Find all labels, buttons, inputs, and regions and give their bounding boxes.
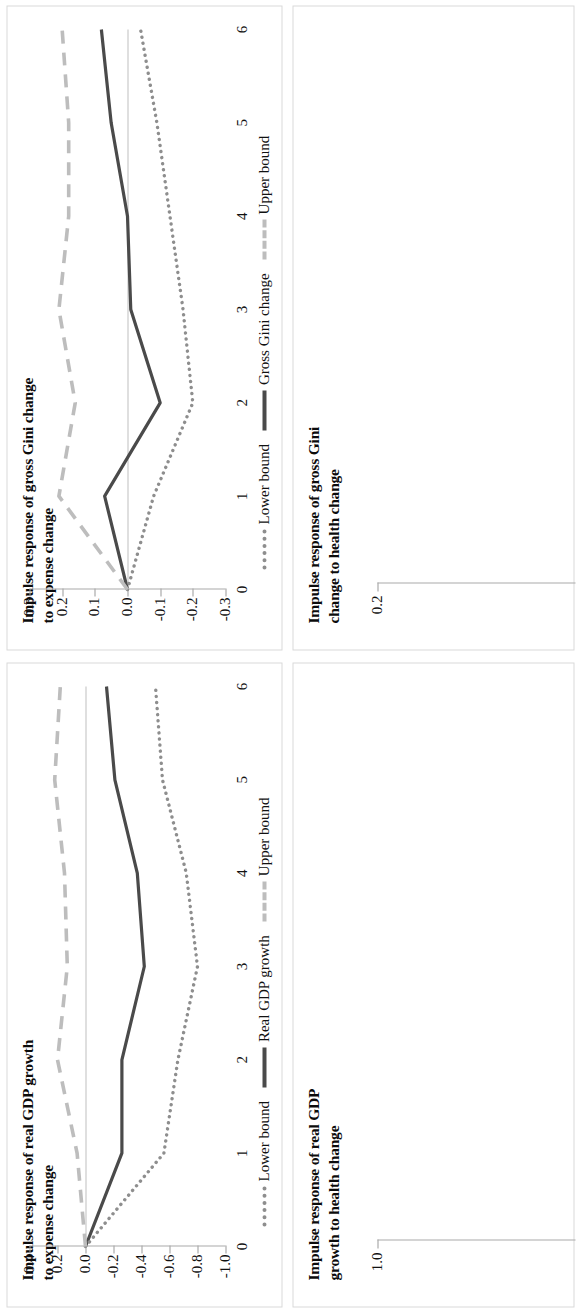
xtick-label: 0 (233, 1242, 250, 1250)
legend-label: Lower bound (255, 1101, 272, 1181)
yaxis-gdp-health (377, 1239, 575, 1240)
legend-item-lower-bound: Lower bound (255, 444, 272, 569)
xtick-label: 0 (233, 585, 250, 593)
xtick-label: 5 (233, 119, 250, 127)
ytick-label: 0.2 (49, 1254, 66, 1300)
legend-item-upper-bound: Upper bound (255, 797, 272, 921)
panel-gdp-health: Impulse response of real GDP growth to h… (292, 662, 574, 1307)
ytick-label: 0.0 (77, 1254, 94, 1300)
panel-title-gini-health: Impulse response of gross Gini change to… (303, 373, 343, 623)
ytick-label: 0.1 (86, 597, 103, 643)
ytick-label: 0.4 (21, 1254, 38, 1300)
panel-gini-expense: Impulse response of gross Gini change to… (6, 5, 282, 650)
panel-gini-health: Impulse response of gross Gini change to… (292, 5, 574, 650)
ytick-label: 0.0 (119, 597, 136, 643)
series-lower-bound (127, 29, 192, 589)
panel-title-line1: Impulse response of gross Gini (304, 426, 321, 623)
series-upper-bound (54, 686, 85, 1246)
series-point-estimate (85, 686, 144, 1246)
xtick-label: 2 (233, 1056, 250, 1064)
xtick-label: 2 (233, 399, 250, 407)
legend-item-lower-bound: Lower bound (255, 1101, 272, 1226)
series-layer (29, 29, 225, 589)
ytick-label: -0.2 (184, 597, 201, 643)
figure-canvas: Impulse response of real GDP growth to e… (0, 0, 580, 1315)
panel-title-line2: change to health change (324, 469, 341, 623)
ytick-label: -0.8 (189, 1254, 206, 1300)
series-point-estimate (101, 29, 160, 589)
ytick-gini-health-first: 0.2 (369, 595, 386, 639)
xtick-label: 5 (233, 776, 250, 784)
chart-legend: Lower boundGross Gini changeUpper bound (255, 135, 272, 569)
panel-gdp-expense: Impulse response of real GDP growth to e… (6, 662, 282, 1307)
xtick-label: 1 (233, 492, 250, 500)
chart-legend: Lower boundReal GDP growthUpper bound (255, 797, 272, 1226)
ytick-label: -0.6 (161, 1254, 178, 1300)
legend-label: Upper bound (255, 135, 272, 214)
xtick-label: 3 (233, 962, 250, 970)
ytick-label: 0.2 (53, 597, 70, 643)
legend-item-point-estimate: Real GDP growth (255, 935, 272, 1087)
xtick-label: 6 (233, 25, 250, 33)
ytick-label: -1.0 (217, 1254, 234, 1300)
xtick-label: 3 (233, 305, 250, 313)
xtick-label: 6 (233, 682, 250, 690)
panel-title-gdp-health: Impulse response of real GDP growth to h… (303, 1030, 343, 1280)
ytick-label: -0.3 (217, 597, 234, 643)
solid-line-icon (262, 390, 266, 430)
panel-title-line2: growth to health change (324, 1125, 341, 1280)
solid-line-icon (262, 1047, 266, 1087)
ytick-label: -0.2 (105, 1254, 122, 1300)
ytick-label: -0.4 (133, 1254, 150, 1300)
ytick-gdp-health-first: 1.0 (369, 1252, 386, 1296)
xtick-label: 4 (233, 869, 250, 877)
series-lower-bound (85, 686, 197, 1246)
xtick-label: 1 (233, 1149, 250, 1157)
legend-label: Lower bound (255, 444, 272, 524)
figure-stage: Impulse response of real GDP growth to e… (0, 0, 580, 1315)
panel-title-line1: Impulse response of real GDP (304, 1088, 321, 1280)
series-upper-bound (58, 29, 127, 589)
dashed-line-icon (262, 881, 266, 921)
xtick-label: 4 (233, 212, 250, 220)
legend-label: Upper bound (255, 797, 272, 876)
dotted-line-icon (262, 1186, 266, 1226)
legend-label: Real GDP growth (255, 935, 272, 1042)
series-layer (29, 686, 225, 1246)
ytick-label: -0.1 (151, 597, 168, 643)
legend-item-upper-bound: Upper bound (255, 135, 272, 259)
dashed-line-icon (262, 219, 266, 259)
yaxis-gini-health (377, 582, 575, 583)
ytick-label: 0.3 (21, 597, 38, 643)
legend-label: Gross Gini change (255, 273, 272, 385)
legend-item-point-estimate: Gross Gini change (255, 273, 272, 430)
dotted-line-icon (262, 529, 266, 569)
